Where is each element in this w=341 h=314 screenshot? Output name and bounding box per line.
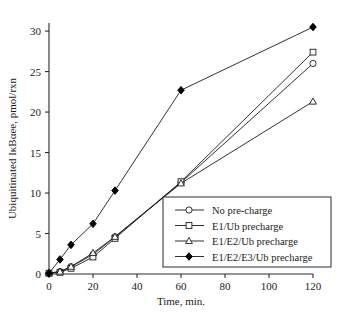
data-point-3-4 bbox=[112, 187, 119, 195]
x-tick-label-60: 60 bbox=[176, 280, 188, 292]
legend-marker-1 bbox=[186, 223, 192, 229]
data-point-2-6 bbox=[310, 98, 317, 104]
data-point-0-6 bbox=[310, 60, 316, 66]
legend-label-1: E1/Ub precharge bbox=[212, 221, 284, 232]
y-tick-label-20: 20 bbox=[30, 106, 42, 118]
x-tick-label-40: 40 bbox=[132, 280, 144, 292]
legend-label-0: No pre-charge bbox=[212, 205, 272, 216]
y-tick-label-5: 5 bbox=[36, 228, 42, 240]
data-point-1-6 bbox=[310, 49, 316, 55]
line-chart-plot: 020406080100120051015202530Time, min.Ubi… bbox=[0, 0, 341, 314]
y-axis-title: Ubiquitinated IκBαee, pmol/rxn bbox=[6, 77, 18, 219]
data-point-3-6 bbox=[310, 23, 317, 31]
x-tick-label-120: 120 bbox=[305, 280, 322, 292]
y-tick-label-25: 25 bbox=[30, 66, 42, 78]
legend-label-2: E1/E2/Ub precharge bbox=[212, 236, 298, 247]
x-tick-label-100: 100 bbox=[261, 280, 278, 292]
legend-label-3: E1/E2/E3/Ub precharge bbox=[212, 252, 313, 263]
y-tick-label-10: 10 bbox=[30, 187, 42, 199]
chart-legend: No pre-chargeE1/Ub prechargeE1/E2/Ub pre… bbox=[163, 197, 331, 267]
x-tick-label-0: 0 bbox=[46, 280, 52, 292]
y-tick-label-0: 0 bbox=[36, 268, 42, 280]
y-tick-label-30: 30 bbox=[30, 25, 42, 37]
legend-marker-0 bbox=[186, 207, 192, 213]
y-tick-label-15: 15 bbox=[30, 147, 42, 159]
x-tick-label-80: 80 bbox=[220, 280, 232, 292]
x-axis-title: Time, min. bbox=[157, 295, 205, 307]
x-tick-label-20: 20 bbox=[88, 280, 100, 292]
data-point-3-5 bbox=[178, 86, 185, 94]
chart-figure: 020406080100120051015202530Time, min.Ubi… bbox=[0, 0, 341, 314]
